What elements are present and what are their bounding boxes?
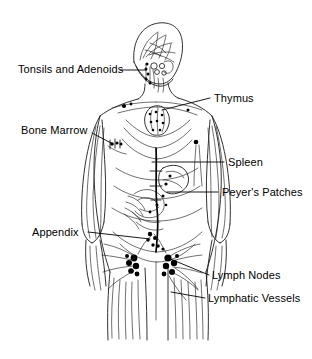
label-peyers-patches: Peyer's Patches [222,186,303,199]
lymphatic-system-diagram: Tonsils and Adenoids Bone Marrow Appendi… [0,0,312,359]
label-spleen: Spleen [228,156,263,169]
anatomy-illustration [0,0,312,359]
appendix-region [124,196,157,247]
tonsils-adenoids-cluster [145,63,167,93]
legs [108,262,209,340]
left-arm [82,116,126,290]
torso-outline [94,116,221,272]
label-lymph-nodes: Lymph Nodes [212,269,281,282]
head-group [134,23,183,86]
intestines-peyers-patches [132,175,172,231]
leader-lymphatic-vessels [171,292,205,298]
right-arm [194,116,231,290]
label-tonsils-and-adenoids: Tonsils and Adenoids [18,63,123,76]
label-appendix: Appendix [32,226,79,239]
label-lymphatic-vessels: Lymphatic Vessels [208,292,300,305]
label-thymus: Thymus [214,92,254,105]
thymus-organ [145,106,170,135]
label-bone-marrow: Bone Marrow [21,124,88,137]
